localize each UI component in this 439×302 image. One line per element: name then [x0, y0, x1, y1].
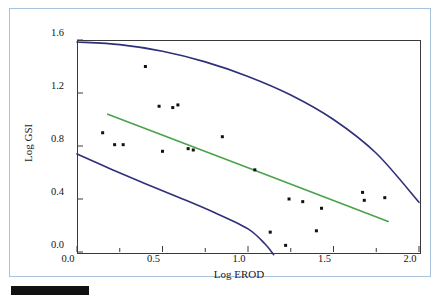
- scatter-point: [158, 105, 161, 108]
- scatter-point: [192, 148, 195, 151]
- scatter-point: [269, 231, 272, 234]
- scatter-point: [161, 150, 164, 153]
- x-axis-title: Log EROD: [214, 268, 264, 280]
- caption-bar: [11, 286, 89, 295]
- scatter-point: [187, 147, 190, 150]
- regression-line: [108, 114, 388, 221]
- scatter-point: [383, 196, 386, 199]
- scatter-point: [288, 198, 291, 201]
- scatter-point: [221, 135, 224, 138]
- scatter-point: [113, 143, 116, 146]
- scatter-point: [171, 106, 174, 109]
- scatter-point: [101, 131, 104, 134]
- y-tick-label: 1.6: [36, 27, 64, 38]
- y-tick-label: 0.8: [36, 133, 64, 144]
- scatter-point: [176, 103, 179, 106]
- x-tick-label: 1.0: [232, 253, 245, 264]
- lower-confidence-band: [77, 154, 274, 255]
- x-tick-label: 0.0: [61, 253, 74, 264]
- scatter-point: [301, 200, 304, 203]
- scatter-point: [361, 191, 364, 194]
- scatter-point: [122, 143, 125, 146]
- confidence-bands-group: [77, 42, 419, 255]
- x-tick-label: 0.5: [147, 253, 160, 264]
- scatter-points-group: [101, 65, 386, 247]
- y-tick-label: 0.0: [36, 239, 64, 250]
- scatter-point: [144, 65, 147, 68]
- scatter-point: [253, 168, 256, 171]
- scatter-point: [363, 199, 366, 202]
- x-tick-label: 2.0: [403, 253, 416, 264]
- regression-line-group: [108, 114, 388, 221]
- figure-container: 0.00.51.01.52.00.00.40.81.21.6 Log EROD …: [0, 0, 439, 302]
- x-tick-label: 1.5: [318, 253, 331, 264]
- scatter-point: [284, 244, 287, 247]
- figure-panel: 0.00.51.01.52.00.00.40.81.21.6 Log EROD …: [9, 8, 431, 277]
- y-tick-label: 0.4: [36, 186, 64, 197]
- scatter-point: [315, 229, 318, 232]
- scatter-point: [320, 207, 323, 210]
- y-axis-title: Log GSI: [22, 124, 34, 162]
- y-tick-label: 1.2: [36, 80, 64, 91]
